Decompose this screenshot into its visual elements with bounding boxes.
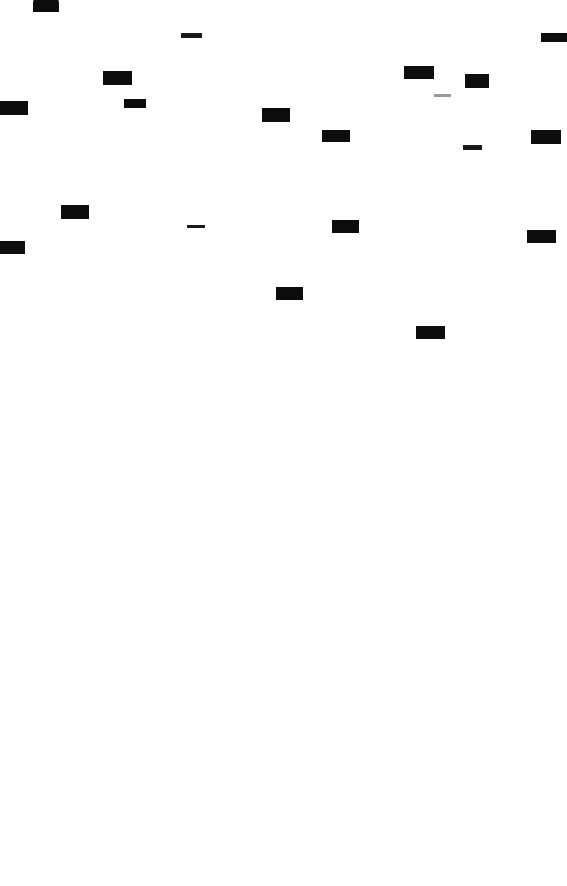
redaction-bar	[465, 74, 489, 88]
redaction-bar	[322, 130, 350, 142]
redaction-bar	[0, 241, 25, 254]
redaction-bar	[463, 145, 482, 150]
redaction-bar	[416, 326, 445, 339]
redaction-bar	[33, 0, 59, 12]
redaction-bar	[103, 71, 132, 85]
redaction-bar	[404, 66, 434, 79]
redaction-bar	[276, 287, 303, 300]
redaction-bar	[332, 220, 359, 233]
redaction-bar	[0, 101, 28, 115]
redaction-bar	[124, 99, 146, 108]
redaction-bar	[434, 94, 451, 97]
redaction-bar	[541, 33, 567, 42]
redaction-bar	[61, 205, 89, 219]
redaction-bar	[181, 33, 202, 38]
redaction-bar	[527, 230, 556, 243]
blank-page-region	[0, 360, 567, 886]
redaction-bar	[262, 108, 290, 122]
redaction-bar	[531, 130, 561, 144]
redaction-bar	[187, 225, 205, 228]
document-page	[0, 0, 567, 886]
redacted-content-region	[0, 0, 567, 360]
